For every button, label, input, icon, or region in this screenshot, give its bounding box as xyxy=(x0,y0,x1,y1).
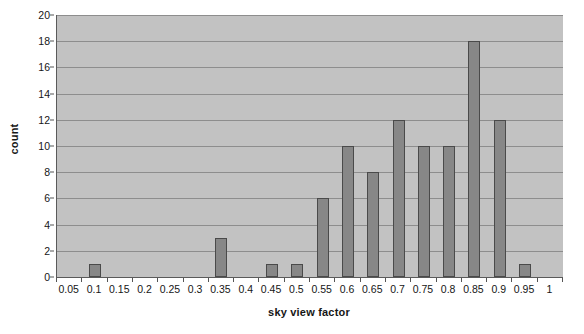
x-axis-tick-label: 1 xyxy=(546,283,552,295)
x-axis-tick-mark xyxy=(486,278,487,282)
gridline xyxy=(57,225,563,226)
histogram-chart: count 02468101214161820 0.050.10.150.20.… xyxy=(0,0,584,334)
x-axis-tick-mark xyxy=(107,278,108,282)
y-axis-tick-label: 12 xyxy=(38,114,50,126)
bar xyxy=(418,146,430,277)
bar xyxy=(393,120,405,277)
x-axis-tick-label: 0.85 xyxy=(463,283,483,295)
x-axis-tick-mark xyxy=(284,278,285,282)
y-axis-tick-mark xyxy=(50,146,54,147)
y-axis-tick-label: 20 xyxy=(38,9,50,21)
x-axis-tick-label: 0.2 xyxy=(137,283,152,295)
x-axis-tick-mark xyxy=(385,278,386,282)
bar xyxy=(317,198,329,277)
x-axis-tick-mark xyxy=(537,278,538,282)
y-axis-tick-label: 16 xyxy=(38,61,50,73)
plot-area xyxy=(56,15,563,278)
x-axis-tick-label: 0.9 xyxy=(491,283,506,295)
gridline xyxy=(57,146,563,147)
x-axis-tick-label: 0.8 xyxy=(441,283,456,295)
x-axis-tick-mark xyxy=(183,278,184,282)
x-axis-tick-label: 0.35 xyxy=(210,283,230,295)
x-axis-tick-label: 0.1 xyxy=(87,283,102,295)
bar xyxy=(468,41,480,277)
x-axis-tick-label: 0.6 xyxy=(340,283,355,295)
gridline xyxy=(57,15,563,16)
x-axis-tick-mark xyxy=(309,278,310,282)
bar xyxy=(443,146,455,277)
bar xyxy=(342,146,354,277)
x-axis-tick-mark xyxy=(360,278,361,282)
gridline xyxy=(57,94,563,95)
x-axis-tick-label: 0.4 xyxy=(238,283,253,295)
y-axis-tick-label-group: 02468101214161820 xyxy=(28,15,54,277)
gridline xyxy=(57,41,563,42)
x-axis-tick-mark xyxy=(132,278,133,282)
y-axis-title: count xyxy=(0,0,28,277)
y-axis-tick-mark xyxy=(50,41,54,42)
gridline xyxy=(57,67,563,68)
x-axis-tick-mark xyxy=(157,278,158,282)
bar xyxy=(266,264,278,277)
bar xyxy=(215,238,227,277)
gridline xyxy=(57,120,563,121)
y-axis-tick-mark xyxy=(50,93,54,94)
bar xyxy=(367,172,379,277)
x-axis-tick-label: 0.45 xyxy=(261,283,281,295)
x-axis-tick-label: 0.15 xyxy=(109,283,129,295)
x-axis-tick-mark xyxy=(208,278,209,282)
x-axis-tick-mark xyxy=(258,278,259,282)
gridline xyxy=(57,251,563,252)
y-axis-tick-mark xyxy=(50,172,54,173)
x-axis-tick-label: 0.05 xyxy=(58,283,78,295)
y-axis-tick-label: 18 xyxy=(38,35,50,47)
gridline xyxy=(57,172,563,173)
y-axis-title-label: count xyxy=(8,123,20,154)
y-axis-tick-mark xyxy=(50,250,54,251)
x-axis-tick-label: 0.5 xyxy=(289,283,304,295)
y-axis-tick-mark xyxy=(50,119,54,120)
x-axis-tick-mark xyxy=(81,278,82,282)
y-axis-tick-mark xyxy=(50,67,54,68)
bar xyxy=(89,264,101,277)
y-axis-tick-mark xyxy=(50,277,54,278)
x-axis-tick-label: 0.75 xyxy=(413,283,433,295)
y-axis-tick-label: 14 xyxy=(38,88,50,100)
x-axis-tick-mark xyxy=(56,278,57,282)
x-axis-tick-mark xyxy=(461,278,462,282)
y-axis-tick-mark xyxy=(50,224,54,225)
x-axis-tick-label: 0.65 xyxy=(362,283,382,295)
y-axis-tick-mark xyxy=(50,15,54,16)
y-axis-tick-mark xyxy=(50,198,54,199)
x-axis-tick-mark xyxy=(562,278,563,282)
x-axis-tick-label: 0.25 xyxy=(160,283,180,295)
x-axis-tick-mark xyxy=(436,278,437,282)
gridline xyxy=(57,198,563,199)
x-axis-tick-mark xyxy=(233,278,234,282)
x-axis-tick-label: 0.7 xyxy=(390,283,405,295)
bar xyxy=(291,264,303,277)
x-axis-tick-label: 0.3 xyxy=(188,283,203,295)
bar xyxy=(519,264,531,277)
bar xyxy=(494,120,506,277)
x-axis-tick-label-group: 0.050.10.150.20.250.30.350.40.450.50.550… xyxy=(56,283,562,299)
y-axis-tick-label: 10 xyxy=(38,140,50,152)
x-axis-tick-label: 0.95 xyxy=(514,283,534,295)
x-axis-tick-mark xyxy=(410,278,411,282)
x-axis-tick-label: 0.55 xyxy=(311,283,331,295)
x-axis-title: sky view factor xyxy=(56,306,562,318)
x-axis-tick-mark xyxy=(334,278,335,282)
x-axis-tick-mark xyxy=(511,278,512,282)
